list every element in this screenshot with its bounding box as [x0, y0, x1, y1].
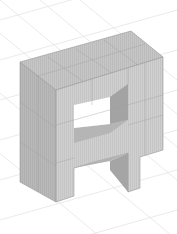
render-viewport [0, 0, 177, 234]
letter-a-model [0, 0, 177, 234]
